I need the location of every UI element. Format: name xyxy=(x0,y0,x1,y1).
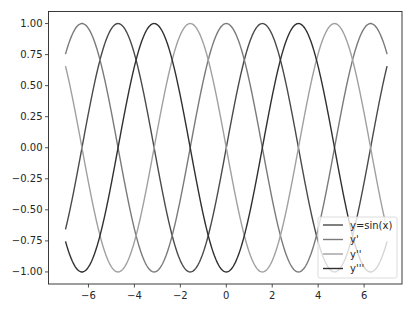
x-tick-label: 4 xyxy=(315,290,321,301)
y-tick-label: 0.50 xyxy=(20,80,42,91)
x-tick-label: 2 xyxy=(269,290,275,301)
legend-label: y' xyxy=(350,234,359,245)
x-tick-label: 6 xyxy=(361,290,367,301)
legend-label: y''' xyxy=(350,263,364,274)
y-tick-label: 1.00 xyxy=(20,18,42,29)
y-tick-label: −0.25 xyxy=(12,173,43,184)
chart: −6−4−20246 1.000.750.500.250.00−0.25−0.5… xyxy=(0,0,415,312)
legend: y=sin(x)y'y''y''' xyxy=(318,217,397,278)
x-tick-label: −4 xyxy=(127,290,142,301)
x-tick-label: −6 xyxy=(81,290,96,301)
y-tick-label: −0.50 xyxy=(12,204,43,215)
legend-label: y=sin(x) xyxy=(350,220,392,231)
x-tick-label: −2 xyxy=(173,290,188,301)
y-tick-label: 0.75 xyxy=(20,49,42,60)
legend-label: y'' xyxy=(350,249,361,260)
y-tick-label: 0.25 xyxy=(20,111,42,122)
y-tick-label: −1.00 xyxy=(12,266,43,277)
x-tick-label: 0 xyxy=(223,290,229,301)
y-tick-label: 0.00 xyxy=(20,142,42,153)
y-tick-label: −0.75 xyxy=(12,235,43,246)
